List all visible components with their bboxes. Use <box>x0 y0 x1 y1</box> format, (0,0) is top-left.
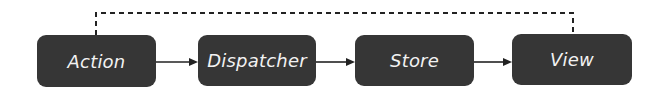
node-action: Action <box>37 35 156 87</box>
node-view: View <box>512 34 632 85</box>
arrow-store-to-view <box>474 58 512 66</box>
arrow-action-to-dispatcher <box>156 58 198 66</box>
node-action-label: Action <box>68 51 126 72</box>
node-store-label: Store <box>390 50 439 71</box>
node-dispatcher-label: Dispatcher <box>207 50 307 71</box>
feedback-dashed-edge <box>96 13 573 35</box>
node-store: Store <box>355 35 474 86</box>
node-dispatcher: Dispatcher <box>198 35 316 86</box>
arrow-dispatcher-to-store <box>316 58 355 66</box>
node-view-label: View <box>550 49 594 70</box>
